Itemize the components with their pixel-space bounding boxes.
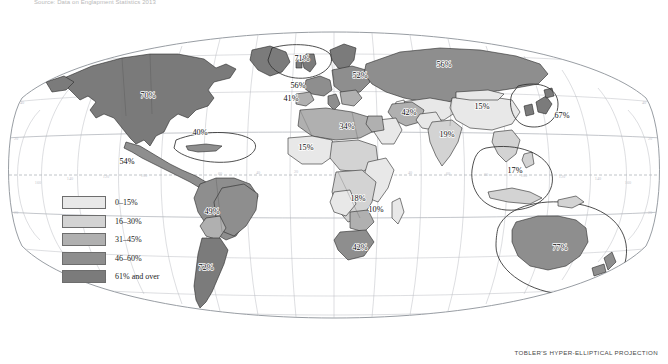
svg-text:160: 160 (35, 180, 41, 185)
svg-text:70%: 70% (140, 91, 155, 100)
svg-text:67%: 67% (554, 111, 569, 120)
svg-text:120: 120 (559, 174, 565, 179)
legend-label: 61% and over (115, 272, 159, 281)
svg-text:71%: 71% (294, 54, 309, 63)
svg-text:34%: 34% (339, 122, 354, 131)
svg-text:10%: 10% (368, 205, 383, 214)
svg-text:40: 40 (20, 246, 24, 251)
legend-item: 0–15% (62, 194, 178, 211)
svg-text:40: 40 (256, 170, 260, 175)
legend-label: 46–60% (115, 254, 142, 263)
svg-text:140: 140 (67, 176, 73, 181)
svg-text:20: 20 (14, 210, 18, 215)
svg-text:60: 60 (31, 64, 35, 69)
svg-text:17%: 17% (507, 166, 522, 175)
region-korea (524, 104, 534, 116)
svg-text:41%: 41% (283, 94, 298, 103)
legend-swatch (62, 233, 106, 246)
svg-text:20: 20 (648, 210, 652, 215)
legend-swatch (62, 196, 106, 209)
svg-text:18%: 18% (350, 194, 365, 203)
svg-text:77%: 77% (552, 243, 567, 252)
svg-text:20: 20 (648, 136, 652, 141)
svg-text:15%: 15% (474, 102, 489, 111)
svg-text:20: 20 (14, 136, 18, 141)
svg-text:42%: 42% (401, 108, 416, 117)
svg-text:120: 120 (103, 174, 109, 179)
projection-note: TOBLER'S HYPER-ELLIPTICAL PROJECTION (515, 349, 658, 356)
svg-text:60: 60 (632, 282, 636, 287)
legend-item: 46–60% (62, 250, 178, 267)
svg-text:40: 40 (642, 100, 646, 105)
legend-item: 16–30% (62, 213, 178, 230)
svg-text:42%: 42% (352, 243, 367, 252)
svg-text:140: 140 (595, 176, 601, 181)
legend-label: 31–45% (115, 235, 142, 244)
svg-text:40: 40 (20, 100, 24, 105)
legend-swatch (62, 270, 106, 283)
svg-text:56%: 56% (436, 60, 451, 69)
svg-text:15%: 15% (298, 143, 313, 152)
legend-label: 0–15% (115, 198, 138, 207)
svg-text:54%: 54% (119, 157, 134, 166)
legend-swatch (62, 252, 106, 265)
legend-swatch (62, 215, 106, 228)
legend: 0–15% 16–30% 31–45% 46–60% 61% and over (62, 194, 178, 287)
svg-text:100: 100 (141, 173, 147, 178)
svg-text:60: 60 (632, 64, 636, 69)
svg-text:52%: 52% (352, 71, 367, 80)
svg-text:56%: 56% (290, 81, 305, 90)
svg-text:40%: 40% (192, 128, 207, 137)
world-map: 160 140 120 100 80 60 40 20 20 40 60 80 … (0, 6, 668, 346)
legend-item: 61% and over (62, 268, 178, 285)
region-hokkaido (544, 88, 554, 98)
svg-text:160: 160 (625, 180, 631, 185)
legend-item: 31–45% (62, 231, 178, 248)
svg-text:60: 60 (218, 171, 222, 176)
svg-text:40: 40 (408, 170, 412, 175)
region-caribbean-islands (186, 144, 222, 152)
legend-label: 16–30% (115, 217, 142, 226)
svg-text:72%: 72% (198, 263, 213, 272)
svg-text:60: 60 (31, 282, 35, 287)
svg-text:49%: 49% (204, 207, 219, 216)
svg-text:80: 80 (484, 172, 488, 177)
svg-text:19%: 19% (439, 130, 454, 139)
svg-text:20: 20 (294, 169, 298, 174)
svg-text:60: 60 (446, 171, 450, 176)
